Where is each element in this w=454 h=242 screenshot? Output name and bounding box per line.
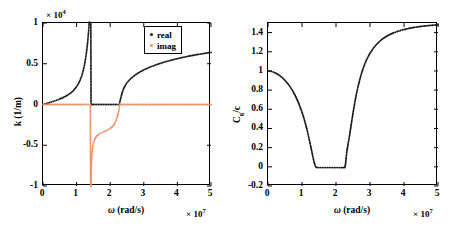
x-axis-title-left: ω (rad/s) [108, 205, 144, 215]
plot-canvas-left [43, 23, 211, 186]
figure-root: × 104 × 107 k (1/m) ω (rad/s) realimag 0… [0, 0, 454, 242]
y-tick-label: -1 [30, 180, 38, 190]
y-axis-title-left: k (1/m) [13, 97, 23, 126]
legend-marker-icon [150, 33, 153, 36]
panel-dispersion-k: × 104 × 107 k (1/m) ω (rad/s) realimag 0… [0, 0, 227, 242]
x-tick-label: 1 [299, 188, 304, 198]
x-tick-label: 4 [174, 188, 179, 198]
x-tick-label: 2 [107, 188, 112, 198]
x-tick-label: 4 [401, 188, 406, 198]
series-Cg/c [267, 24, 439, 169]
y-tick-label: 0.4 [251, 122, 263, 132]
y-exponent-left: × 104 [46, 8, 66, 20]
x-tick-label: 5 [435, 188, 440, 198]
x-tick-label: 0 [40, 188, 45, 198]
x-tick-label: 5 [208, 188, 213, 198]
x-tick-label: 2 [333, 188, 338, 198]
legend-item-imag: imag [148, 40, 176, 51]
y-tick-label: -0.2 [248, 180, 263, 190]
y-tick-label: 1.4 [251, 27, 263, 37]
legend-label: real [157, 30, 172, 40]
legend-item-real: real [148, 29, 176, 40]
x-tick-label: 1 [73, 188, 78, 198]
y-tick-label: 0.6 [251, 103, 263, 113]
legend-label: imag [157, 41, 176, 51]
y-tick-label: 0.5 [26, 58, 38, 68]
x-axis-title-right: ω (rad/s) [334, 205, 370, 215]
y-tick-label: 0 [33, 99, 38, 109]
x-tick-label: 3 [367, 188, 372, 198]
y-tick-label: 1 [258, 65, 263, 75]
x-exponent-left: × 107 [186, 207, 206, 219]
y-tick-label: 1.2 [251, 46, 263, 56]
y-tick-label: 0.8 [251, 84, 263, 94]
y-tick-label: -0.5 [23, 139, 38, 149]
x-tick-label: 3 [140, 188, 145, 198]
y-tick-label: 0.2 [251, 142, 263, 152]
plot-area-right [267, 22, 437, 185]
y-tick-label: 1 [33, 17, 38, 27]
series-imag [42, 104, 212, 187]
x-exponent-right: × 107 [413, 207, 433, 219]
series-real [42, 21, 212, 105]
legend-left: realimag [144, 26, 182, 54]
y-tick-label: 0 [258, 161, 263, 171]
panel-group-velocity: × 107 Cg/c ω (rad/s) 0123451.41.210.80.6… [227, 0, 454, 242]
plot-canvas-right [268, 23, 438, 186]
x-tick-label: 0 [265, 188, 270, 198]
y-axis-title-right: Cg/c [232, 106, 244, 123]
plot-area-left [42, 22, 210, 185]
legend-marker-icon [150, 44, 153, 47]
